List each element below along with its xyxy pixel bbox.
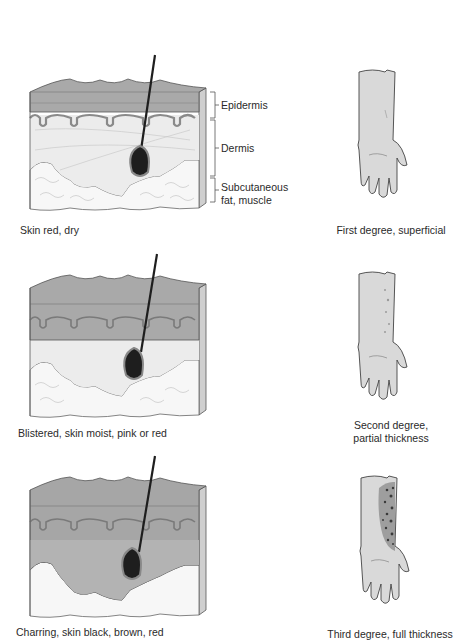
- label-epidermis: Epidermis: [221, 99, 268, 112]
- arm-second-degree: [355, 272, 425, 412]
- arm-caption-second-degree-line2: partial thickness: [331, 432, 451, 445]
- label-dermis: Dermis: [221, 142, 254, 155]
- arm-caption-first-degree: First degree, superficial: [331, 224, 451, 237]
- arm-caption-second-degree-line1: Second degree,: [331, 419, 451, 432]
- arm-caption-third-degree: Third degree, full thickness: [325, 628, 455, 641]
- skin-caption-third-degree: Charring, skin black, brown, red: [16, 626, 164, 639]
- skin-cross-section-third-degree: [0, 440, 280, 640]
- label-fat-muscle: fat, muscle: [221, 194, 272, 207]
- arm-third-degree: [357, 476, 427, 616]
- skin-caption-first-degree: Skin red, dry: [20, 224, 79, 237]
- skin-caption-second-degree: Blistered, skin moist, pink or red: [18, 427, 167, 440]
- skin-cross-section-second-degree: [0, 240, 280, 440]
- label-subcutaneous: Subcutaneous: [221, 181, 288, 194]
- arm-first-degree: [355, 70, 425, 210]
